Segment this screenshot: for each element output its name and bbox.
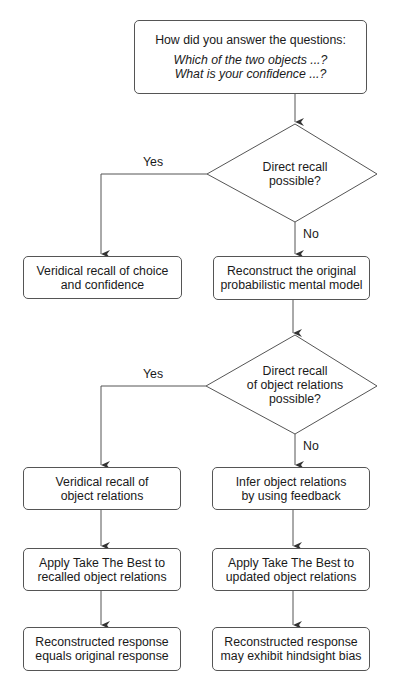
reconstruct-model-box: Reconstruct the original probabilistic m…: [213, 256, 370, 300]
apply-updated-box: Apply Take The Best to updated object re…: [212, 548, 370, 591]
apply-updated-line1: Apply Take The Best to: [228, 556, 354, 570]
decision1-no-label: No: [303, 227, 319, 241]
veridical-choice-line2: and confidence: [61, 278, 144, 292]
veridical-relations-line1: Veridical recall of: [56, 475, 149, 489]
apply-recalled-box: Apply Take The Best to recalled object r…: [23, 548, 181, 591]
decision2-no-label: No: [303, 439, 319, 453]
apply-updated-line2: updated object relations: [226, 570, 357, 584]
decision2-yes-label: Yes: [143, 367, 163, 381]
apply-recalled-line2: recalled object relations: [37, 570, 166, 584]
decision2-line1: Direct recall: [247, 364, 343, 378]
reconstruct-model-line1: Reconstruct the original: [227, 264, 356, 278]
result-bias-box: Reconstructed response may exhibit hinds…: [212, 627, 370, 671]
decision1-yes-label: Yes: [143, 155, 163, 169]
veridical-choice-line1: Veridical recall of choice: [37, 264, 169, 278]
apply-recalled-line1: Apply Take The Best to: [39, 556, 165, 570]
result-bias-line1: Reconstructed response: [224, 635, 357, 649]
decision2-line2: of object relations: [247, 378, 343, 392]
decision1-line2: possible?: [263, 174, 328, 188]
result-equal-line1: Reconstructed response: [35, 635, 168, 649]
start-question-box: How did you answer the questions: Which …: [134, 20, 367, 94]
start-q2: What is your confidence ...?: [175, 67, 327, 81]
reconstruct-model-line2: probabilistic mental model: [220, 278, 362, 292]
arrow-decision2-yes: [101, 386, 206, 465]
veridical-relations-box: Veridical recall of object relations: [23, 467, 181, 510]
infer-relations-box: Infer object relations by using feedback: [212, 467, 370, 510]
decision1-text: Direct recall possible?: [263, 160, 328, 188]
result-bias-line2: may exhibit hindsight bias: [221, 649, 362, 663]
result-equal-line2: equals original response: [35, 649, 168, 663]
infer-relations-line1: Infer object relations: [236, 475, 347, 489]
decision1-line1: Direct recall: [263, 160, 328, 174]
decision2-text: Direct recall of object relations possib…: [247, 364, 343, 406]
veridical-choice-box: Veridical recall of choice and confidenc…: [23, 256, 182, 299]
infer-relations-line2: by using feedback: [241, 489, 340, 503]
veridical-relations-line2: object relations: [61, 489, 144, 503]
start-question: How did you answer the questions:: [155, 33, 346, 47]
decision2-line3: possible?: [247, 392, 343, 406]
arrow-decision1-yes: [101, 174, 207, 254]
start-q1: Which of the two objects ...?: [174, 53, 328, 67]
result-equal-box: Reconstructed response equals original r…: [23, 627, 181, 671]
